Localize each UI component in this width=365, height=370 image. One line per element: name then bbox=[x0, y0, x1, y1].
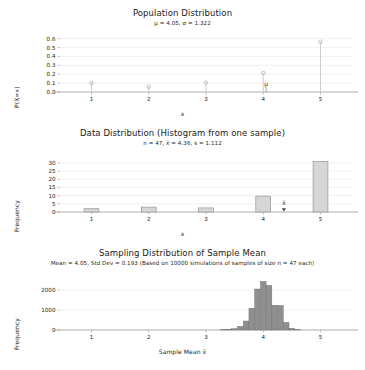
svg-text:2: 2 bbox=[147, 216, 151, 222]
statistics-figure: Population Distribution μ = 4.05, σ = 1.… bbox=[0, 0, 365, 370]
svg-text:0.1: 0.1 bbox=[47, 80, 56, 86]
data-distribution-panel: Data Distribution (Histogram from one sa… bbox=[0, 128, 365, 250]
sampling-y-axis-label: Frequency bbox=[13, 318, 20, 350]
population-plot-area: P(X=x) 0.00.10.20.30.40.50.612345μ x bbox=[0, 30, 365, 112]
sampling-plot-area: Frequency 01000200012345 Sample Mean x̄ bbox=[0, 270, 365, 350]
svg-text:0.4: 0.4 bbox=[47, 53, 56, 59]
svg-text:15: 15 bbox=[48, 184, 56, 190]
population-chart-subtitle: μ = 4.05, σ = 1.322 bbox=[0, 19, 365, 28]
sampling-x-axis-label: Sample Mean x̄ bbox=[0, 348, 365, 355]
svg-text:1: 1 bbox=[90, 334, 94, 340]
svg-text:1: 1 bbox=[90, 216, 94, 222]
svg-text:4: 4 bbox=[261, 96, 265, 102]
svg-text:1: 1 bbox=[90, 96, 94, 102]
sample-plot-area: Frequency 05101520253012345x̄ x bbox=[0, 150, 365, 232]
sample-plot-svg: 05101520253012345x̄ bbox=[0, 150, 365, 232]
svg-text:2: 2 bbox=[147, 96, 151, 102]
population-chart-title: Population Distribution bbox=[0, 8, 365, 19]
svg-text:30: 30 bbox=[48, 160, 56, 166]
population-x-axis-label: x bbox=[0, 110, 365, 117]
svg-text:0.5: 0.5 bbox=[47, 45, 56, 51]
svg-text:3: 3 bbox=[204, 334, 208, 340]
sampling-chart-subtitle: Mean = 4.05, Std Dev = 0.193 (Based on 1… bbox=[0, 259, 365, 268]
sample-y-axis-label: Frequency bbox=[13, 200, 20, 232]
svg-text:2: 2 bbox=[147, 334, 151, 340]
svg-text:0.6: 0.6 bbox=[47, 36, 56, 42]
svg-text:μ: μ bbox=[264, 81, 268, 88]
svg-text:1000: 1000 bbox=[41, 307, 56, 313]
svg-text:3: 3 bbox=[204, 96, 208, 102]
sampling-plot-svg: 01000200012345 bbox=[0, 270, 365, 350]
svg-text:5: 5 bbox=[319, 96, 323, 102]
svg-text:2000: 2000 bbox=[41, 287, 56, 293]
svg-text:10: 10 bbox=[48, 193, 56, 199]
svg-text:5: 5 bbox=[52, 201, 56, 207]
sample-chart-title: Data Distribution (Histogram from one sa… bbox=[0, 128, 365, 139]
svg-text:5: 5 bbox=[319, 216, 323, 222]
sample-x-axis-label: x bbox=[0, 230, 365, 237]
population-distribution-panel: Population Distribution μ = 4.05, σ = 1.… bbox=[0, 8, 365, 128]
svg-text:0.2: 0.2 bbox=[47, 71, 56, 77]
population-y-axis-label: P(X=x) bbox=[13, 86, 20, 108]
svg-text:0.3: 0.3 bbox=[47, 62, 56, 68]
svg-text:3: 3 bbox=[204, 216, 208, 222]
svg-text:4: 4 bbox=[261, 334, 265, 340]
svg-text:25: 25 bbox=[48, 168, 56, 174]
population-plot-svg: 0.00.10.20.30.40.50.612345μ bbox=[0, 30, 365, 112]
sampling-chart-title: Sampling Distribution of Sample Mean bbox=[0, 248, 365, 259]
svg-text:5: 5 bbox=[319, 334, 323, 340]
svg-text:4: 4 bbox=[261, 216, 265, 222]
svg-text:x̄: x̄ bbox=[282, 200, 286, 206]
svg-text:20: 20 bbox=[48, 176, 56, 182]
sampling-distribution-panel: Sampling Distribution of Sample Mean Mea… bbox=[0, 248, 365, 370]
sample-chart-subtitle: n = 47, x̄ = 4.36, s = 1.112 bbox=[0, 139, 365, 148]
